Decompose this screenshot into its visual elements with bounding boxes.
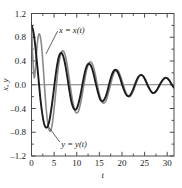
x-axis-title: t — [101, 170, 104, 180]
chart-figure: –1.2–0.8–0.40.00.40.81.2 051015202530 x … — [0, 0, 182, 188]
x-curve-label-leader — [46, 31, 58, 54]
y-axis-tick-labels: –1.2–0.8–0.40.00.40.81.2 — [9, 9, 26, 162]
y-tick-label: 0.8 — [15, 32, 27, 42]
y-tick-label: –1.2 — [9, 151, 26, 161]
x-tick-label: 25 — [140, 158, 150, 168]
series-line-y — [32, 25, 175, 131]
y-axis-title: x, y — [0, 79, 10, 93]
x-tick-label: 15 — [95, 158, 105, 168]
x-tick-label: 20 — [117, 158, 127, 168]
y-tick-label: 1.2 — [15, 9, 26, 19]
y-curve-label-leader — [49, 128, 60, 143]
x-curve-label: x = x(t) — [58, 25, 85, 35]
x-tick-label: 0 — [29, 158, 34, 168]
x-axis-tick-labels: 051015202530 — [29, 158, 172, 168]
y-tick-label: –0.4 — [9, 104, 26, 114]
y-tick-label: 0.0 — [15, 80, 27, 90]
x-tick-label: 5 — [52, 158, 57, 168]
y-tick-label: –0.8 — [9, 127, 26, 137]
damped-oscillation-chart: –1.2–0.8–0.40.00.40.81.2 051015202530 x … — [0, 0, 182, 188]
y-curve-label: y = y(t) — [60, 139, 87, 149]
curve-annotations-group: x = x(t)y = y(t) — [46, 25, 87, 149]
y-tick-label: 0.4 — [15, 56, 27, 66]
x-tick-label: 30 — [163, 158, 173, 168]
data-series-group — [32, 25, 175, 131]
x-tick-label: 10 — [72, 158, 82, 168]
